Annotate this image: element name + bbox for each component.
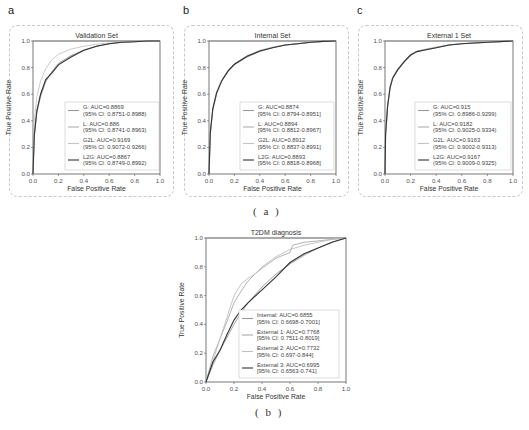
legend-ci: [95% CI: 0.7511-0.8019] bbox=[257, 335, 320, 341]
legend-ci: [95% CI: 0.6563-0.741] bbox=[257, 368, 317, 374]
legend-label: G2L: AUC=0.9163 bbox=[433, 137, 480, 143]
legend-label: G2L: AUC=0.9169 bbox=[83, 137, 130, 143]
x-tick-label: 0.6 bbox=[281, 177, 290, 184]
x-tick-label: 1.0 bbox=[156, 177, 165, 184]
x-tick-label: 1.0 bbox=[509, 177, 518, 184]
y-tick-label: 0.6 bbox=[197, 90, 206, 97]
legend-label: G: AUC=0.915 bbox=[433, 104, 471, 110]
x-tick-label: 0.2 bbox=[230, 177, 239, 184]
legend-ci: (95% CI: 0.9072-0.9266) bbox=[83, 144, 147, 150]
x-tick-label: 0.0 bbox=[202, 385, 211, 392]
x-tick-label: 0.8 bbox=[130, 177, 139, 184]
legend-label: L: AUC=0.886 bbox=[83, 121, 119, 127]
legend-ci: (95% CI: 0.8751-0.8988) bbox=[83, 111, 147, 117]
x-tick-label: 0.0 bbox=[205, 177, 214, 184]
x-tick-label: 0.0 bbox=[381, 177, 390, 184]
legend-label: External 2: AUC=0.7732 bbox=[257, 345, 319, 351]
y-axis-label: True Positive Rate bbox=[178, 282, 185, 338]
legend-ci: [95% CI: 0.8837-0.8991] bbox=[258, 144, 321, 150]
x-axis-label: False Positive Rate bbox=[67, 185, 126, 192]
roc-figure: Validation Set0.00.20.40.60.81.00.00.20.… bbox=[0, 0, 529, 430]
y-tick-label: 0.2 bbox=[194, 349, 203, 356]
legend-ci: (95% CI: 0.9002-0.9313) bbox=[433, 144, 497, 150]
y-tick-label: 0.0 bbox=[194, 378, 203, 385]
y-tick-label: 0.4 bbox=[21, 117, 30, 124]
roc-chart-a: Validation Set0.00.20.40.60.81.00.00.20.… bbox=[5, 32, 165, 192]
x-tick-label: 0.2 bbox=[54, 177, 63, 184]
x-axis-label: False Positive Rate bbox=[247, 393, 306, 400]
legend-ci: (95% CI: 0.8986-0.9299) bbox=[433, 111, 497, 117]
x-tick-label: 0.4 bbox=[258, 385, 267, 392]
legend-ci: [95% CI: 0.697-0.844] bbox=[257, 352, 314, 358]
y-tick-label: 0.4 bbox=[373, 117, 382, 124]
x-tick-label: 0.4 bbox=[432, 177, 441, 184]
x-tick-label: 0.4 bbox=[255, 177, 264, 184]
chart-title: External 1 Set bbox=[427, 32, 471, 39]
legend-label: Internal: AUC=0.6855 bbox=[257, 312, 313, 318]
y-tick-label: 0.2 bbox=[373, 143, 382, 150]
y-tick-label: 0.0 bbox=[21, 170, 30, 177]
legend-label: G: AUC=0.8874 bbox=[258, 104, 300, 110]
legend-label: G: AUC=0.8869 bbox=[83, 104, 124, 110]
roc-chart-b: Internal Set0.00.20.40.60.81.00.00.20.40… bbox=[181, 32, 341, 192]
x-tick-label: 0.8 bbox=[314, 385, 323, 392]
chart-title: T2DM diagnosis bbox=[251, 229, 302, 237]
y-tick-label: 1.0 bbox=[194, 234, 203, 241]
legend-label: L2G: AUC=0.8893 bbox=[258, 154, 305, 160]
x-tick-label: 1.0 bbox=[332, 177, 341, 184]
y-tick-label: 0.6 bbox=[373, 90, 382, 97]
y-tick-label: 0.0 bbox=[197, 170, 206, 177]
y-tick-label: 0.2 bbox=[21, 143, 30, 150]
legend-ci: (95% CI: 0.8749-0.8992) bbox=[83, 160, 147, 166]
legend-label: External 3: AUC=0.6995 bbox=[257, 362, 319, 368]
y-tick-label: 1.0 bbox=[21, 37, 30, 44]
chart-title: Internal Set bbox=[255, 32, 291, 39]
x-tick-label: 0.6 bbox=[457, 177, 466, 184]
legend-label: L: AUC=0.8894 bbox=[258, 121, 298, 127]
x-tick-label: 0.4 bbox=[79, 177, 88, 184]
roc-chart-b-bottom: T2DM diagnosis0.00.20.40.60.81.00.00.20.… bbox=[178, 229, 351, 400]
x-tick-label: 0.2 bbox=[406, 177, 415, 184]
y-tick-label: 0.6 bbox=[194, 292, 203, 299]
y-tick-label: 0.2 bbox=[197, 143, 206, 150]
y-tick-label: 0.8 bbox=[197, 64, 206, 71]
legend-ci: [95% CI: 0.8818-0.8968] bbox=[258, 160, 321, 166]
legend-label: L: AUC=0.9182 bbox=[433, 121, 472, 127]
y-tick-label: 0.4 bbox=[194, 320, 203, 327]
x-tick-label: 0.2 bbox=[230, 385, 239, 392]
y-tick-label: 1.0 bbox=[373, 37, 382, 44]
chart-title: Validation Set bbox=[75, 32, 118, 39]
y-tick-label: 1.0 bbox=[197, 37, 206, 44]
y-tick-label: 0.8 bbox=[194, 263, 203, 270]
y-axis-label: True Positive Rate bbox=[357, 79, 364, 135]
y-tick-label: 0.8 bbox=[21, 64, 30, 71]
x-axis-label: False Positive Rate bbox=[243, 185, 302, 192]
legend-ci: [95% CI: 0.6698-0.7001] bbox=[257, 319, 320, 325]
y-axis-label: True Positive Rate bbox=[181, 79, 188, 135]
x-tick-label: 0.8 bbox=[306, 177, 315, 184]
legend-ci: (95% CI: 0.9025-0.9334) bbox=[433, 127, 497, 133]
x-tick-label: 0.6 bbox=[286, 385, 295, 392]
x-axis-label: False Positive Rate bbox=[420, 185, 479, 192]
x-tick-label: 0.8 bbox=[483, 177, 492, 184]
y-tick-label: 0.0 bbox=[373, 170, 382, 177]
legend-label: L2G: AUC=0.8867 bbox=[83, 154, 130, 160]
y-axis-label: True Positive Rate bbox=[5, 79, 12, 135]
x-tick-label: 0.0 bbox=[29, 177, 38, 184]
legend-ci: (95% CI: 0.9009-0.9325) bbox=[433, 160, 497, 166]
x-tick-label: 0.6 bbox=[105, 177, 114, 184]
legend-ci: [95% CI: 0.8812-0.8967] bbox=[258, 127, 321, 133]
x-tick-label: 1.0 bbox=[342, 385, 351, 392]
legend-ci: [95% CI: 0.8794-0.8951] bbox=[258, 111, 321, 117]
y-tick-label: 0.6 bbox=[21, 90, 30, 97]
y-tick-label: 0.4 bbox=[197, 117, 206, 124]
roc-chart-c: External 1 Set0.00.20.40.60.81.00.00.20.… bbox=[357, 32, 518, 192]
y-tick-label: 0.8 bbox=[373, 64, 382, 71]
legend-label: L2G: AUC=0.9167 bbox=[433, 154, 480, 160]
legend-ci: (95% CI: 0.8741-0.8963) bbox=[83, 127, 147, 133]
legend-label: G2L: AUC=0.8912 bbox=[258, 137, 305, 143]
legend-label: External 1: AUC=0.7768 bbox=[257, 329, 319, 335]
